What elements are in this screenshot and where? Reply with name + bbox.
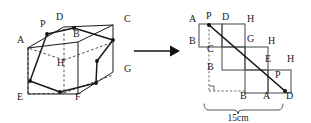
dimension-label: 15cm	[227, 113, 249, 123]
vertex-dot	[94, 81, 98, 85]
transform-arrow	[134, 46, 180, 57]
cube-label-b: B	[73, 28, 80, 39]
width-dimension: 15cm	[204, 104, 283, 123]
cube-figure: A B C D E F G H P	[17, 11, 131, 102]
net-label-h-mid: H	[268, 35, 275, 46]
cube-label-f: F	[75, 91, 81, 102]
geometry-diagram: A B C D E F G H P	[0, 0, 311, 123]
cube-label-a: A	[17, 34, 25, 45]
right-angle-marker	[209, 86, 214, 91]
cube-hidden-edges	[28, 27, 113, 94]
cross-section-path	[30, 28, 113, 92]
vertex-dot	[28, 79, 32, 83]
net-square-2	[222, 24, 245, 47]
cube-label-c: C	[124, 13, 131, 24]
unfolded-net-figure: A P D H B G H C E H B P B A D 15cm	[189, 10, 294, 123]
cube-label-d: D	[56, 11, 63, 22]
net-label-p-top: P	[206, 10, 212, 21]
vertex-dot	[95, 59, 99, 63]
net-label-b-upper: B	[189, 35, 196, 46]
arrow-head-icon	[170, 46, 180, 57]
net-label-a-top: A	[189, 13, 197, 24]
net-square-3	[222, 47, 245, 70]
net-label-d-top: D	[222, 11, 229, 22]
vertex-dot	[45, 32, 49, 36]
net-label-a-bot: A	[263, 90, 271, 101]
cube-label-h: H	[57, 57, 64, 68]
net-label-c: C	[207, 43, 214, 54]
cube-label-e: E	[17, 91, 23, 102]
net-label-d-bot: D	[286, 90, 293, 101]
cube-label-p: P	[40, 18, 46, 29]
net-label-b-bot: B	[240, 90, 247, 101]
cube-label-g: G	[124, 63, 131, 74]
net-label-b-lower: B	[207, 61, 214, 72]
vertex-dot	[111, 38, 115, 42]
net-squares	[199, 24, 291, 93]
vertex-dot	[58, 90, 62, 94]
net-label-e: E	[265, 53, 271, 64]
net-label-h-top: H	[247, 13, 254, 24]
net-label-p-bot: P	[275, 69, 281, 80]
net-label-h-right: H	[287, 53, 294, 64]
net-construction-lines	[209, 25, 246, 91]
diagonal-start-dot	[207, 23, 211, 27]
net-label-g: G	[247, 33, 254, 44]
geometry-figure-root: A B C D E F G H P	[0, 0, 311, 123]
